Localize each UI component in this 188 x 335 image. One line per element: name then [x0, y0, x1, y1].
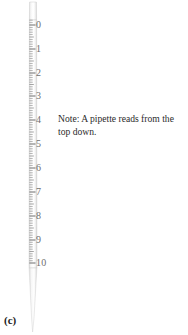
scale-label-1: 1 — [36, 44, 41, 54]
scale-label-7: 7 — [36, 187, 41, 197]
note-line-2: top down. — [58, 125, 184, 138]
scale-label-0: 0 — [36, 20, 41, 30]
scale-label-8: 8 — [36, 211, 41, 221]
note-text: Note: A pipette reads from the top down. — [58, 112, 184, 138]
scale-label-3: 3 — [36, 91, 41, 101]
figure-pipette-panel: 012345678910 Note: A pipette reads from … — [0, 0, 188, 335]
scale-label-4: 4 — [36, 115, 41, 125]
scale-label-6: 6 — [36, 163, 41, 173]
scale-label-2: 2 — [36, 68, 41, 78]
scale-number-labels: 012345678910 — [36, 0, 70, 335]
scale-label-9: 9 — [36, 235, 41, 245]
note-line-1: Note: A pipette reads from the — [58, 112, 184, 125]
panel-label: (c) — [4, 314, 16, 326]
scale-label-5: 5 — [36, 139, 41, 149]
scale-label-10: 10 — [36, 258, 46, 268]
